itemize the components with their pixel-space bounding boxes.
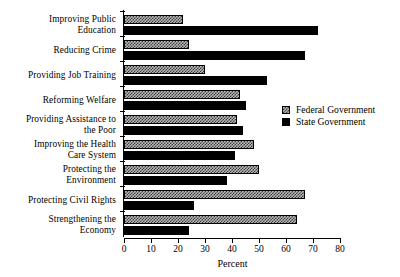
x-axis-tick-label: 80 xyxy=(328,244,352,254)
y-axis-tick xyxy=(120,11,125,12)
bar-state xyxy=(124,201,194,210)
category-label-line: Improving the Health xyxy=(0,139,116,150)
x-axis-tick-label: 0 xyxy=(112,244,136,254)
x-axis-tick xyxy=(178,238,179,243)
bar-federal xyxy=(124,115,237,124)
x-axis-title: Percent xyxy=(124,258,341,269)
category-label: Reforming Welfare xyxy=(0,95,116,106)
bar-federal xyxy=(124,165,259,174)
category-label-line: Strengthening the xyxy=(0,214,116,225)
bar-federal xyxy=(124,140,254,149)
y-axis-tick xyxy=(120,111,125,112)
y-axis-tick xyxy=(120,161,125,162)
x-axis-tick-label: 30 xyxy=(193,244,217,254)
legend-item-state: State Government xyxy=(282,116,375,128)
bar-federal xyxy=(124,90,240,99)
x-axis-tick xyxy=(151,238,152,243)
category-label-line: Reforming Welfare xyxy=(0,95,116,106)
y-axis-tick xyxy=(120,36,125,37)
x-axis-tick xyxy=(124,238,125,243)
legend: Federal Government State Government xyxy=(282,104,375,128)
category-label-line: Education xyxy=(0,25,116,36)
x-axis-tick xyxy=(232,238,233,243)
category-label: Improving PublicEducation xyxy=(0,14,116,35)
y-axis-tick xyxy=(120,211,125,212)
category-label-line: Environment xyxy=(0,175,116,186)
bar-federal xyxy=(124,65,205,74)
bar-state xyxy=(124,51,305,60)
bar-state xyxy=(124,126,243,135)
bar-state xyxy=(124,26,318,35)
category-label: Protecting theEnvironment xyxy=(0,164,116,185)
y-axis-tick xyxy=(120,86,125,87)
y-axis-tick xyxy=(120,186,125,187)
x-axis-tick-label: 20 xyxy=(166,244,190,254)
category-axis-labels: Improving PublicEducationReducing CrimeP… xyxy=(0,0,120,237)
x-axis-tick xyxy=(205,238,206,243)
category-label-line: Protecting Civil Rights xyxy=(0,195,116,206)
y-axis-tick xyxy=(120,136,125,137)
bar-state xyxy=(124,151,235,160)
bar-state xyxy=(124,226,189,235)
category-label-line: Care System xyxy=(0,150,116,161)
category-label-line: Reducing Crime xyxy=(0,45,116,56)
category-label: Providing Job Training xyxy=(0,70,116,81)
x-axis-tick-label: 60 xyxy=(274,244,298,254)
bar-federal xyxy=(124,15,183,24)
category-label: Improving the HealthCare System xyxy=(0,139,116,160)
y-axis-tick xyxy=(120,61,125,62)
bar-state xyxy=(124,101,246,110)
category-label: Strengthening theEconomy xyxy=(0,214,116,235)
x-axis-tick-label: 40 xyxy=(220,244,244,254)
x-axis-tick-label: 50 xyxy=(247,244,271,254)
legend-swatch-state-icon xyxy=(282,118,290,126)
legend-label-state: State Government xyxy=(296,116,366,128)
bar-chart: Improving PublicEducationReducing CrimeP… xyxy=(0,0,400,277)
x-axis-tick xyxy=(313,238,314,243)
legend-label-federal: Federal Government xyxy=(296,104,375,116)
x-axis-tick-label: 70 xyxy=(301,244,325,254)
x-axis-tick xyxy=(286,238,287,243)
bar-federal xyxy=(124,215,297,224)
x-axis-tick-label: 10 xyxy=(139,244,163,254)
legend-item-federal: Federal Government xyxy=(282,104,375,116)
category-label-line: Protecting the xyxy=(0,164,116,175)
category-label-line: Providing Job Training xyxy=(0,70,116,81)
category-label: Providing Assistance tothe Poor xyxy=(0,114,116,135)
bar-federal xyxy=(124,40,189,49)
bar-state xyxy=(124,76,267,85)
bar-federal xyxy=(124,190,305,199)
category-label-line: Economy xyxy=(0,225,116,236)
category-label: Reducing Crime xyxy=(0,45,116,56)
legend-swatch-federal-icon xyxy=(282,106,290,114)
category-label: Protecting Civil Rights xyxy=(0,195,116,206)
bar-state xyxy=(124,176,227,185)
category-label-line: the Poor xyxy=(0,125,116,136)
category-label-line: Improving Public xyxy=(0,14,116,25)
x-axis-tick xyxy=(340,238,341,243)
category-label-line: Providing Assistance to xyxy=(0,114,116,125)
x-axis-tick xyxy=(259,238,260,243)
